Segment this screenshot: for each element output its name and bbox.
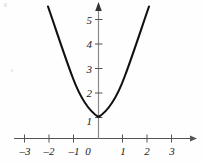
- x-tick-label--3: –3: [20, 146, 31, 157]
- y-tick-label-3: 3: [78, 64, 92, 75]
- y-tick-label-2: 2: [78, 88, 92, 99]
- y-tick-label-1: 1: [78, 116, 92, 127]
- plot-canvas: [0, 0, 204, 163]
- y-tick-label-5: 5: [78, 15, 92, 26]
- y-tick-label-4: 4: [78, 39, 92, 50]
- x-tick-label-2: 2: [144, 146, 150, 157]
- x-tick-label-3: 3: [169, 146, 175, 157]
- x-tick-label-1: 1: [120, 146, 126, 157]
- x-tick-label--2: –2: [44, 146, 55, 157]
- x-axis: [14, 135, 197, 143]
- y-axis: [95, 2, 103, 139]
- x-tick-label--1: –1: [69, 146, 80, 157]
- graph-figure: –3 –2 –1 0 1 2 3 5 4 3 2 1: [0, 0, 204, 163]
- x-tick-label-origin: 0: [85, 146, 91, 157]
